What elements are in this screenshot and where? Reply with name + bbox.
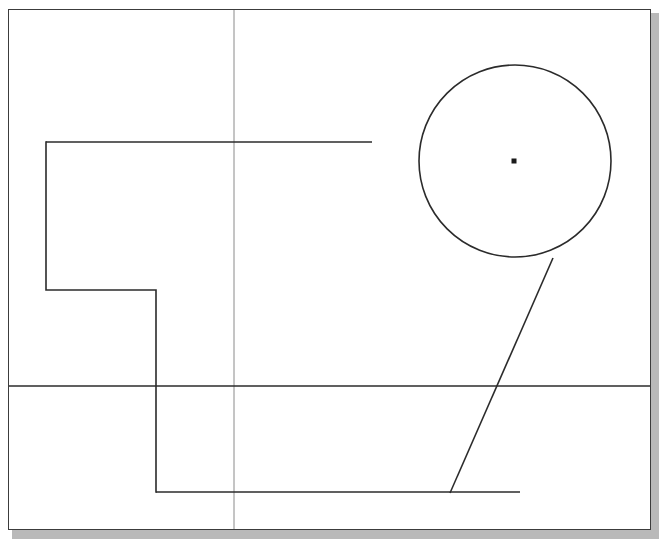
circle-center-point[interactable] xyxy=(512,159,517,164)
circle-layer xyxy=(419,65,611,257)
drawing-canvas[interactable] xyxy=(0,0,671,550)
profile-layer xyxy=(46,142,156,492)
cad-drawing-app xyxy=(0,0,671,550)
tangent-diagonal-line[interactable] xyxy=(450,258,553,493)
tangent-layer xyxy=(450,258,553,493)
stepped-profile-polyline[interactable] xyxy=(46,142,156,492)
datum-layer xyxy=(9,142,650,492)
